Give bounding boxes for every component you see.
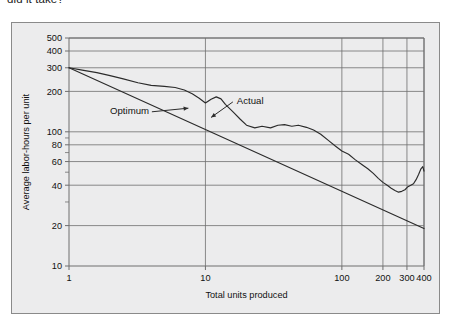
y-tick-label: 300 bbox=[47, 63, 62, 73]
y-axis-title: Average labor-hours per unit bbox=[21, 93, 31, 210]
axis-ticks bbox=[65, 38, 424, 270]
annotation-label-optimum: Optimum bbox=[110, 105, 149, 116]
y-tick-label: 200 bbox=[47, 87, 62, 97]
series-line-actual bbox=[69, 68, 424, 192]
x-axis-title: Total units produced bbox=[205, 290, 287, 300]
series-line-optimum bbox=[69, 68, 424, 229]
x-tick-label: 100 bbox=[334, 273, 349, 283]
annotation-label-actual: Actual bbox=[237, 95, 264, 106]
x-tick-label: 300 bbox=[399, 273, 414, 283]
x-tick-label: 10 bbox=[200, 273, 210, 283]
y-tick-label: 40 bbox=[52, 181, 62, 191]
annotation-arrowhead-actual bbox=[211, 113, 216, 117]
x-tick-label: 1 bbox=[66, 273, 71, 283]
y-tick-label: 100 bbox=[47, 127, 62, 137]
y-tick-label: 20 bbox=[52, 221, 62, 231]
x-tick-label: 400 bbox=[416, 273, 431, 283]
data-series bbox=[69, 68, 424, 229]
y-tick-label: 500 bbox=[47, 33, 62, 43]
axis-frame bbox=[69, 38, 424, 266]
grid-lines bbox=[69, 38, 424, 266]
y-tick-label: 10 bbox=[52, 261, 62, 271]
clipped-body-text: did it take? bbox=[7, 0, 64, 5]
x-tick-labels: 110100200300400 bbox=[66, 273, 431, 283]
annotation-leader-optimum bbox=[152, 108, 189, 112]
chart-plot-area: 110100200300400 102040608010020030040050… bbox=[12, 23, 441, 315]
learning-curve-chart: 110100200300400 102040608010020030040050… bbox=[12, 23, 441, 315]
y-tick-labels: 1020406080100200300400500 bbox=[47, 33, 62, 271]
y-tick-label: 60 bbox=[52, 157, 62, 167]
figure-panel: 110100200300400 102040608010020030040050… bbox=[11, 22, 440, 314]
y-tick-label: 80 bbox=[52, 140, 62, 150]
x-tick-label: 200 bbox=[375, 273, 390, 283]
y-tick-label: 400 bbox=[47, 46, 62, 56]
annotations: OptimumActual bbox=[110, 95, 263, 117]
